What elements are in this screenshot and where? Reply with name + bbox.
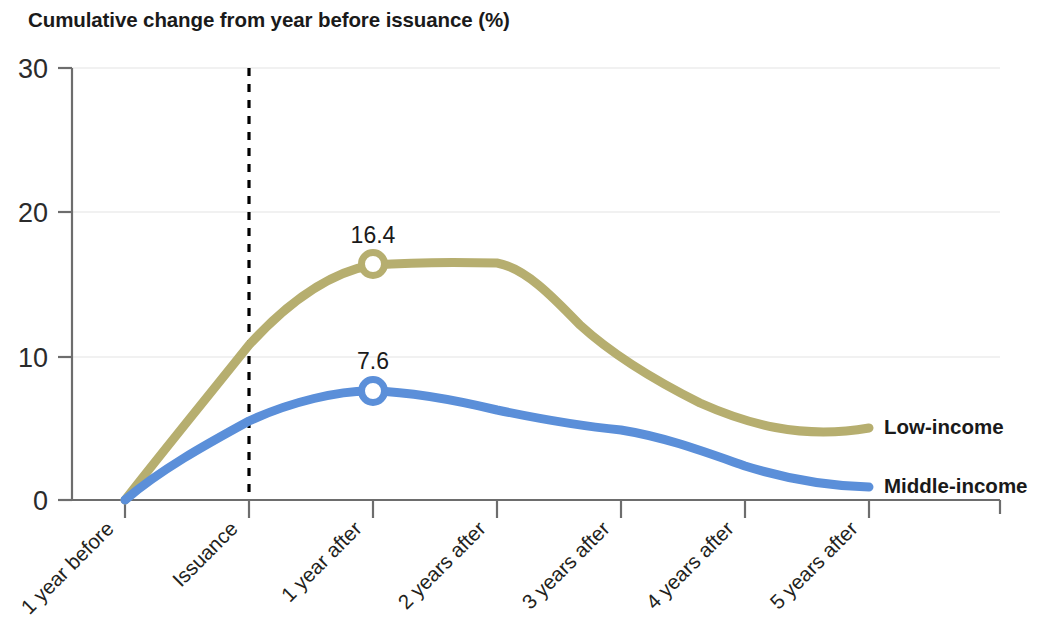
middle-income-peak-value: 7.6 bbox=[357, 348, 389, 374]
legend-item-middle-income: Middle-income bbox=[884, 474, 1028, 498]
gridlines bbox=[72, 68, 1000, 357]
chart-container: Cumulative change from year before issua… bbox=[0, 0, 1061, 643]
x-tick-label-1: Issuance bbox=[168, 517, 242, 591]
y-tick-label-20: 20 bbox=[18, 198, 48, 228]
x-tick-label-3: 2 years after bbox=[393, 516, 490, 613]
x-tick-labels: 1 year before Issuance 1 year after 2 ye… bbox=[16, 516, 862, 618]
y-tick-label-0: 0 bbox=[33, 486, 48, 516]
x-tick-label-4: 3 years after bbox=[517, 516, 614, 613]
x-axis bbox=[72, 500, 1000, 518]
legend-item-low-income: Low-income bbox=[884, 415, 1004, 439]
y-axis bbox=[58, 68, 72, 500]
low-income-peak-marker bbox=[362, 253, 385, 276]
middle-income-peak-marker bbox=[362, 380, 385, 403]
low-income-peak-value: 16.4 bbox=[351, 222, 396, 248]
series-line-middle-income bbox=[125, 391, 869, 500]
line-chart-plot: 30 20 10 0 16.4 7.6 1 year be bbox=[0, 0, 1061, 643]
x-tick-label-5: 4 years after bbox=[641, 516, 738, 613]
series-line-low-income bbox=[125, 262, 869, 500]
x-tick-label-6: 5 years after bbox=[765, 516, 862, 613]
y-tick-label-30: 30 bbox=[18, 54, 48, 84]
y-tick-label-10: 10 bbox=[18, 343, 48, 373]
x-tick-label-2: 1 year after bbox=[276, 516, 366, 606]
x-tick-label-0: 1 year before bbox=[16, 517, 118, 619]
